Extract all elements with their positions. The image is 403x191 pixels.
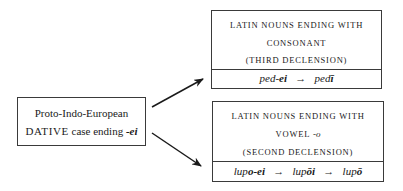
arrow-to-second-declension [152,133,201,166]
connector-arrows [0,0,403,191]
arrow-to-third-declension [152,79,203,107]
